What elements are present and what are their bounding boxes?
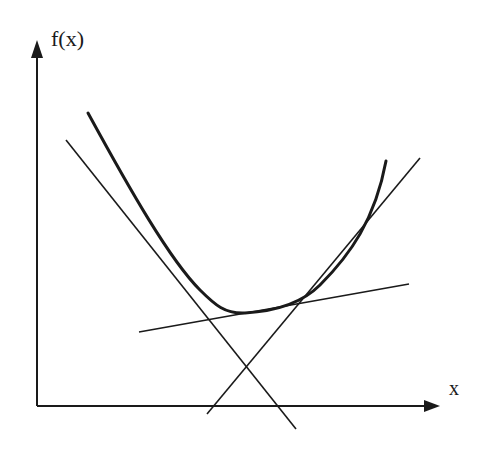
diagram-svg <box>0 0 483 452</box>
x-axis-arrow-icon <box>424 400 440 412</box>
right-tangent-line <box>207 158 420 414</box>
left-tangent-line <box>66 140 296 429</box>
function-curve <box>88 113 386 313</box>
y-axis-arrow-icon <box>31 40 43 58</box>
x-axis-label: x <box>449 378 459 398</box>
y-axis-label: f(x) <box>51 28 84 50</box>
diagram-canvas: f(x) x <box>0 0 483 452</box>
